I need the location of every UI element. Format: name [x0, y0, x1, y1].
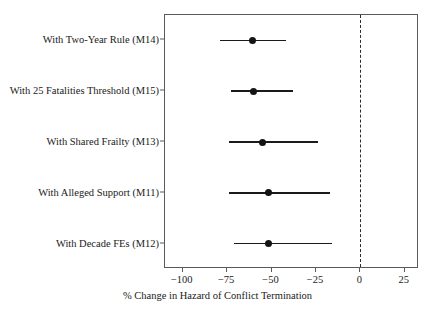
- x-axis-tick: [271, 268, 272, 272]
- x-axis-tick-label: −100: [171, 274, 193, 286]
- x-axis-tick: [315, 268, 316, 272]
- y-axis-category-label: With 25 Fatalities Threshold (M15): [10, 85, 159, 96]
- x-axis-tick-label: 25: [399, 274, 410, 286]
- x-axis-tick-label: 0: [357, 274, 362, 286]
- forest-plot-figure: With Two-Year Rule (M14)With 25 Fataliti…: [0, 0, 435, 315]
- point-estimate-marker: [259, 139, 266, 146]
- y-axis-category-label: With Decade FEs (M12): [56, 237, 159, 248]
- zero-reference-line: [360, 15, 361, 267]
- y-axis-category-label: With Alleged Support (M11): [38, 186, 159, 197]
- confidence-interval-bar: [231, 90, 293, 92]
- y-axis-category-label: With Two-Year Rule (M14): [43, 34, 159, 45]
- point-estimate-marker: [265, 240, 272, 247]
- confidence-interval-bar: [234, 243, 332, 245]
- x-axis-tick: [182, 268, 183, 272]
- x-axis-tick-label: −25: [307, 274, 323, 286]
- y-axis-tick: [160, 191, 164, 192]
- y-axis-tick: [160, 90, 164, 91]
- y-axis-category-label: With Shared Frailty (M13): [47, 136, 159, 147]
- y-axis-tick: [160, 242, 164, 243]
- y-axis-tick: [160, 39, 164, 40]
- x-axis-tick: [359, 268, 360, 272]
- point-estimate-marker: [265, 189, 272, 196]
- x-axis-title: % Change in Hazard of Conflict Terminati…: [0, 290, 435, 302]
- point-estimate-marker: [250, 88, 257, 95]
- x-axis-tick: [226, 268, 227, 272]
- y-axis-tick: [160, 141, 164, 142]
- confidence-interval-bar: [229, 192, 330, 194]
- confidence-interval-bar: [229, 141, 318, 143]
- plot-area: [164, 14, 418, 268]
- x-axis-tick-label: −50: [262, 274, 278, 286]
- x-axis-tick-label: −75: [218, 274, 234, 286]
- point-estimate-marker: [249, 37, 256, 44]
- x-axis-tick: [404, 268, 405, 272]
